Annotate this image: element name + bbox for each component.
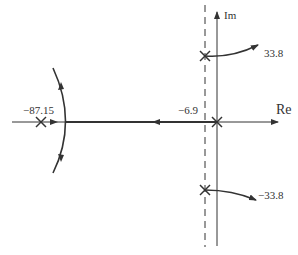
locus-branch-lower bbox=[205, 190, 256, 200]
imag-axis-label: Im bbox=[224, 9, 237, 21]
root-locus-diagram: Im Re −87.15 −6.9 33.8 −33.8 bbox=[0, 0, 298, 255]
real-axis-label: Re bbox=[276, 102, 292, 117]
far-pole-label: −87.15 bbox=[23, 104, 54, 116]
locus-branch-upper bbox=[205, 45, 258, 56]
asymptote-label: −6.9 bbox=[178, 104, 198, 116]
lower-branch-label: −33.8 bbox=[258, 189, 284, 201]
arrow-right-icon bbox=[50, 119, 58, 125]
upper-branch-label: 33.8 bbox=[264, 47, 284, 59]
arrow-left-icon bbox=[152, 119, 160, 125]
